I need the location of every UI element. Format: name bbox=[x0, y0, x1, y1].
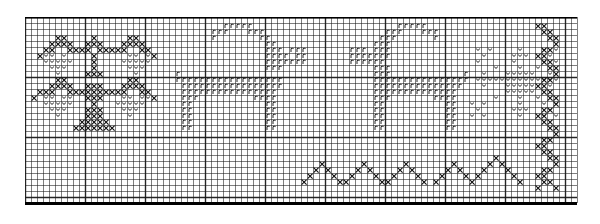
r-stitch-icon bbox=[453, 126, 456, 130]
r-stitch-icon bbox=[423, 30, 426, 34]
r-stitch-icon bbox=[375, 48, 378, 52]
r-stitch-icon bbox=[297, 48, 300, 52]
cross-stitch-icon bbox=[542, 24, 547, 29]
v-stitch-icon bbox=[129, 67, 132, 69]
r-stitch-icon bbox=[195, 78, 198, 82]
r-stitch-icon bbox=[273, 90, 276, 94]
v-stitch-icon bbox=[507, 91, 510, 93]
r-stitch-icon bbox=[183, 84, 186, 88]
r-stitch-icon bbox=[219, 30, 222, 34]
r-stitch-icon bbox=[429, 30, 432, 34]
cross-stitch-icon bbox=[548, 96, 553, 101]
cross-stitch-icon bbox=[152, 96, 157, 101]
r-stitch-icon bbox=[423, 24, 426, 28]
cross-stitch-icon bbox=[464, 174, 469, 179]
cross-stitch-icon bbox=[548, 168, 553, 173]
cross-stitch-icon bbox=[554, 162, 559, 167]
r-stitch-icon bbox=[213, 78, 216, 82]
cross-stitch-icon bbox=[458, 168, 463, 173]
cross-stitch-icon bbox=[500, 162, 505, 167]
r-stitch-icon bbox=[231, 24, 234, 28]
cross-stitch-icon bbox=[548, 30, 553, 35]
v-stitch-icon bbox=[147, 55, 150, 57]
cross-stitch-icon bbox=[98, 96, 103, 101]
r-stitch-icon bbox=[381, 72, 384, 76]
r-stitch-icon bbox=[225, 78, 228, 82]
r-stitch-icon bbox=[453, 78, 456, 82]
cross-stitch-icon bbox=[50, 48, 55, 53]
cross-stitch-icon bbox=[476, 174, 481, 179]
cross-stitch-icon bbox=[554, 186, 559, 191]
r-stitch-icon bbox=[375, 78, 378, 82]
cross-stitch-icon bbox=[332, 174, 337, 179]
cross-stitch-icon bbox=[518, 180, 523, 185]
r-stitch-icon bbox=[369, 60, 372, 64]
v-stitch-icon bbox=[69, 61, 72, 63]
cross-stitch-icon bbox=[554, 126, 559, 131]
r-stitch-icon bbox=[267, 54, 270, 58]
r-stitch-icon bbox=[237, 78, 240, 82]
r-stitch-icon bbox=[381, 78, 384, 82]
r-stitch-icon bbox=[417, 78, 420, 82]
r-stitch-icon bbox=[189, 96, 192, 100]
cross-stitch-icon bbox=[116, 48, 121, 53]
r-stitch-icon bbox=[381, 36, 384, 40]
r-stitch-icon bbox=[279, 54, 282, 58]
cross-stitch-icon bbox=[62, 78, 67, 83]
cross-stitch-icon bbox=[92, 108, 97, 113]
r-stitch-icon bbox=[429, 78, 432, 82]
r-stitch-icon bbox=[213, 30, 216, 34]
r-stitch-icon bbox=[273, 84, 276, 88]
cross-stitch-icon bbox=[536, 54, 541, 59]
r-stitch-icon bbox=[213, 84, 216, 88]
cross-stitch-icon bbox=[320, 162, 325, 167]
r-stitch-icon bbox=[267, 84, 270, 88]
r-stitch-icon bbox=[381, 48, 384, 52]
cross-stitch-icon bbox=[554, 36, 559, 41]
r-stitch-icon bbox=[255, 96, 258, 100]
v-stitch-icon bbox=[549, 85, 552, 87]
r-stitch-icon bbox=[267, 48, 270, 52]
v-stitch-icon bbox=[489, 79, 492, 81]
cross-stitch-icon bbox=[86, 84, 91, 89]
v-stitch-icon bbox=[123, 97, 126, 99]
r-stitch-icon bbox=[381, 90, 384, 94]
r-stitch-icon bbox=[411, 78, 414, 82]
v-stitch-icon bbox=[45, 55, 48, 57]
cross-stitch-icon bbox=[140, 84, 145, 89]
r-stitch-icon bbox=[363, 48, 366, 52]
cross-stitch-icon bbox=[128, 42, 133, 47]
r-stitch-icon bbox=[423, 78, 426, 82]
v-stitch-icon bbox=[135, 73, 138, 75]
v-stitch-icon bbox=[477, 109, 480, 111]
r-stitch-icon bbox=[375, 126, 378, 130]
cross-stitch-icon bbox=[554, 66, 559, 71]
r-stitch-icon bbox=[183, 120, 186, 124]
r-stitch-icon bbox=[411, 24, 414, 28]
v-stitch-icon bbox=[51, 97, 54, 99]
r-stitch-icon bbox=[387, 48, 390, 52]
v-stitch-icon bbox=[525, 85, 528, 87]
r-stitch-icon bbox=[387, 90, 390, 94]
r-stitch-icon bbox=[273, 108, 276, 112]
cross-stitch-icon bbox=[92, 90, 97, 95]
r-stitch-icon bbox=[225, 30, 228, 34]
r-stitch-icon bbox=[393, 30, 396, 34]
cross-stitch-icon bbox=[98, 126, 103, 131]
cross-stitch-icon bbox=[98, 108, 103, 113]
r-stitch-icon bbox=[177, 72, 180, 76]
r-stitch-icon bbox=[279, 66, 282, 70]
cross-stitch-icon bbox=[98, 90, 103, 95]
v-stitch-icon bbox=[513, 73, 516, 75]
v-stitch-icon bbox=[507, 85, 510, 87]
v-stitch-icon bbox=[51, 61, 54, 63]
r-stitch-icon bbox=[207, 90, 210, 94]
r-stitch-icon bbox=[237, 84, 240, 88]
stitch-grid bbox=[25, 17, 579, 205]
v-stitch-icon bbox=[525, 55, 528, 57]
r-stitch-icon bbox=[417, 84, 420, 88]
v-stitch-icon bbox=[123, 109, 126, 111]
cross-stitch-icon bbox=[68, 90, 73, 95]
v-stitch-icon bbox=[537, 79, 540, 81]
cross-stitch-icon bbox=[44, 90, 49, 95]
